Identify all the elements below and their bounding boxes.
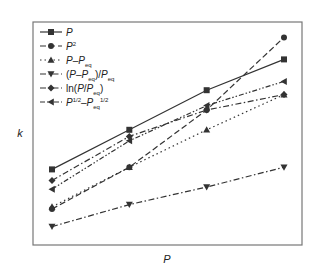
x-axis-label: P xyxy=(163,253,171,265)
legend-label: P xyxy=(66,27,73,38)
legend-label: P2​ xyxy=(66,41,77,52)
legend-item-p-peq-peq: (P–Peq​)/Peq​ xyxy=(40,69,114,82)
data-point-p-3 xyxy=(204,87,210,93)
data-point-p-2 xyxy=(126,127,132,133)
data-point-p-peq-peq-4 xyxy=(281,164,288,170)
data-point-ln-p-peq-1 xyxy=(49,177,56,184)
legend-label: ln(P/Peq​) xyxy=(66,83,103,96)
legend-item-p: P xyxy=(40,27,73,38)
data-point-p-4 xyxy=(281,56,287,62)
legend-marker xyxy=(48,29,54,35)
legend-item-p-2: P2​ xyxy=(40,41,77,52)
legend-marker xyxy=(48,57,55,63)
legend-label: (P–Peq​)/Peq​ xyxy=(66,69,114,82)
data-point-p-1-2-peq-1-2-4 xyxy=(281,78,287,85)
data-point-p-2-4 xyxy=(281,34,287,40)
legend-item-ln-p-peq: ln(P/Peq​) xyxy=(40,83,103,96)
series-p-peq-peq xyxy=(49,164,288,230)
legend-item-p-1-2-peq-1-2: P1/2​–Peq​1/2​ xyxy=(40,97,109,110)
legend-label: P1/2​–Peq​1/2​ xyxy=(66,97,109,110)
data-point-p-1-2-peq-1-2-1 xyxy=(49,186,55,193)
legend-item-p-peq: P–Peq​ xyxy=(40,55,92,68)
data-point-p-1 xyxy=(49,166,55,172)
chart: PP2​P–Peq​(P–Peq​)/Peq​ln(P/Peq​)P1/2​–P… xyxy=(0,0,321,280)
series-line-p-peq-peq xyxy=(52,167,284,226)
legend: PP2​P–Peq​(P–Peq​)/Peq​ln(P/Peq​)P1/2​–P… xyxy=(40,27,114,110)
data-point-p-peq-3 xyxy=(203,126,210,132)
legend-label: P–Peq​ xyxy=(66,55,92,68)
data-point-p-peq-peq-1 xyxy=(49,224,56,230)
legend-marker xyxy=(48,85,55,92)
legend-marker xyxy=(48,43,54,49)
data-point-p-peq-1 xyxy=(49,203,56,209)
data-point-p-peq-peq-3 xyxy=(203,184,210,190)
y-axis-label: k xyxy=(17,127,23,139)
legend-marker xyxy=(48,99,54,106)
